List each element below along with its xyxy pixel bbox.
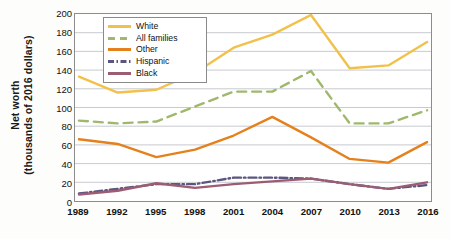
legend-swatch-icon [107,33,132,44]
legend-swatch-icon [107,68,132,79]
y-axis-title-line2: (thousands of 2016 dollars) [23,35,36,174]
x-tick-2016: 2016 [417,206,438,217]
y-tick-20: 20 [46,178,72,189]
y-tick-140: 140 [46,64,72,75]
legend-label: All families [136,33,178,44]
x-tick-2004: 2004 [262,206,283,217]
x-tick-2010: 2010 [340,206,361,217]
legend-label: White [136,21,158,32]
y-axis-title-line1: Net worth [10,35,23,174]
legend-item-hispanic[interactable]: Hispanic [107,56,202,68]
y-tick-100: 100 [46,102,72,113]
x-tick-2013: 2013 [378,206,399,217]
legend-item-black[interactable]: Black [107,67,202,79]
x-axis-tick-labels: 1989199219951998200120042007201020132016 [0,206,450,226]
y-tick-80: 80 [46,121,72,132]
legend-swatch-icon [107,44,132,55]
legend-label: Black [136,68,157,79]
legend-swatch-icon [107,21,132,32]
legend-label: Other [136,44,158,55]
y-axis-title: Net worth (thousands of 2016 dollars) [0,0,46,210]
legend-item-all-families[interactable]: All families [107,33,202,45]
y-tick-120: 120 [46,83,72,94]
y-tick-180: 180 [46,26,72,37]
legend-item-white[interactable]: White [107,21,202,33]
y-tick-160: 160 [46,45,72,56]
series-line-hispanic [79,178,427,194]
x-tick-1998: 1998 [184,206,205,217]
x-tick-1995: 1995 [145,206,166,217]
y-tick-200: 200 [46,8,72,19]
x-tick-1989: 1989 [67,206,88,217]
x-tick-2001: 2001 [223,206,244,217]
legend-label: Hispanic [136,56,169,67]
legend-swatch-icon [107,56,132,67]
x-tick-2007: 2007 [301,206,322,217]
y-tick-40: 40 [46,159,72,170]
y-axis-tick-labels: 020406080100120140160180200 [44,0,72,239]
x-tick-1992: 1992 [106,206,127,217]
chart-legend: WhiteAll familiesOtherHispanicBlack [103,17,207,83]
legend-item-other[interactable]: Other [107,44,202,56]
net-worth-line-chart: Net worth (thousands of 2016 dollars) 02… [0,0,450,239]
y-tick-60: 60 [46,140,72,151]
